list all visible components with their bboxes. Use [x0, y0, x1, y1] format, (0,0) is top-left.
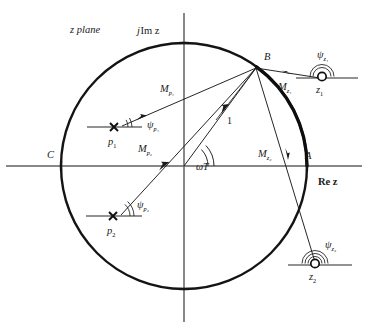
pole-p1-label: p1 — [107, 136, 116, 149]
angle-psi-z2-label: ψz₂ — [325, 239, 336, 252]
vector-unit-1 — [184, 68, 256, 166]
angle-psi-p2-label: ψp₂ — [137, 199, 149, 212]
omega-t-label: ωT — [196, 161, 210, 172]
magnitude-Mz2-label: Mz₂ — [257, 148, 271, 161]
fan-line-1 — [216, 68, 256, 120]
zero-z1-group — [296, 65, 358, 81]
imaginary-axis-label: jIm z — [135, 25, 160, 36]
pole-p2-label: p2 — [106, 225, 115, 238]
circle-marker — [311, 259, 319, 267]
zero-z2-group — [288, 251, 352, 268]
magnitude-Mz1-label: Mz₁ — [277, 81, 291, 94]
real-axis-label: Re z — [318, 176, 338, 187]
vector-unit-1-arrowhead — [221, 104, 229, 114]
magnitude-Mp2-label: Mp₂ — [137, 143, 152, 156]
point-C-label: C — [47, 149, 55, 160]
plane-label: z plane — [69, 24, 100, 35]
z-plane-pole-zero-diagram: z plane jIm z Re z A B C 1 ωT Mp₁ Mp₂ Mz… — [0, 0, 368, 334]
zero-z1-label: z1 — [315, 84, 323, 97]
vector-Mp2 — [121, 68, 256, 215]
pole-p1-group — [87, 118, 142, 131]
circle-marker — [318, 72, 326, 80]
angle-psi-p1-label: ψp₁ — [147, 119, 159, 132]
imag-axis-im-z: Im z — [140, 25, 159, 36]
angle-psi-z1-label: ψz₁ — [317, 49, 328, 62]
magnitude-Mp1-label: Mp₁ — [159, 83, 174, 96]
vector-Mz2-arrowhead — [285, 148, 290, 160]
imag-axis-j: j — [135, 25, 140, 36]
point-B-label: B — [264, 51, 271, 62]
vector-Mp1-arrowhead — [136, 114, 147, 120]
point-A-label: A — [304, 150, 312, 161]
zero-z2-label: z2 — [308, 271, 316, 284]
diagram-canvas: z plane jIm z Re z A B C 1 ωT Mp₁ Mp₂ Mz… — [0, 0, 368, 334]
unit-vector-label: 1 — [227, 115, 232, 126]
real-axis-re: Re z — [318, 176, 338, 187]
pole-p2-group — [86, 202, 142, 221]
